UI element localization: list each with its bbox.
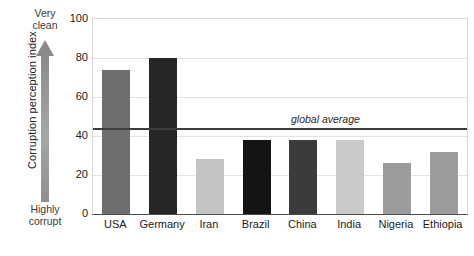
bar-india[interactable]	[336, 140, 364, 214]
bars-layer	[93, 19, 467, 214]
y-tick-label: 100	[62, 12, 88, 24]
bar-slot	[140, 19, 187, 214]
bar-slot	[187, 19, 234, 214]
global-average-label: global average	[291, 113, 360, 125]
bar-iran[interactable]	[196, 159, 224, 214]
bar-germany[interactable]	[149, 58, 177, 214]
bar-nigeria[interactable]	[383, 163, 411, 214]
bar-usa[interactable]	[102, 70, 130, 214]
x-tick-label-brazil: Brazil	[232, 218, 279, 230]
y-tick-label: 40	[62, 129, 88, 141]
x-tick-label-ethiopia: Ethiopia	[419, 218, 466, 230]
y-axis-tick-labels: 020406080100	[60, 0, 88, 256]
x-tick-label-nigeria: Nigeria	[373, 218, 420, 230]
global-average-line	[93, 128, 467, 130]
direction-arrow	[36, 40, 54, 202]
y-tick-label: 60	[62, 90, 88, 102]
arrow-shaft	[41, 54, 49, 202]
x-tick-label-germany: Germany	[139, 218, 186, 230]
x-tick-label-usa: USA	[92, 218, 139, 230]
x-tick-label-iran: Iran	[186, 218, 233, 230]
bar-slot	[93, 19, 140, 214]
y-tick-label: 80	[62, 51, 88, 63]
bar-brazil[interactable]	[243, 140, 271, 214]
bar-china[interactable]	[289, 140, 317, 214]
x-axis-tick-labels: USAGermanyIranBrazilChinaIndiaNigeriaEth…	[92, 218, 466, 238]
plot-area: global average	[92, 18, 468, 215]
y-tick-label: 0	[62, 207, 88, 219]
x-tick-label-china: China	[279, 218, 326, 230]
y-tick-label: 20	[62, 168, 88, 180]
bar-slot	[420, 19, 467, 214]
bar-ethiopia[interactable]	[430, 152, 458, 214]
bar-slot	[233, 19, 280, 214]
corruption-perception-index-chart: Corruption perception index Very clean H…	[0, 0, 474, 256]
bar-slot	[374, 19, 421, 214]
x-tick-label-india: India	[326, 218, 373, 230]
